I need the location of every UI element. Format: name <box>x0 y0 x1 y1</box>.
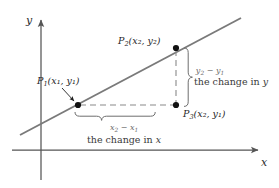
change-in-y-formula: y2 − y1 <box>195 66 224 76</box>
change-in-y-brace <box>184 48 192 106</box>
change-in-x-brace <box>75 112 155 120</box>
point-p2-dot <box>173 45 179 51</box>
point-p2-label: P2(x₂, y₂) <box>117 35 161 48</box>
change-in-x-caption: the change in x <box>87 134 162 145</box>
point-p1-dot <box>75 102 81 108</box>
point-p3-dot <box>173 102 179 108</box>
p1-leader-arrow <box>62 88 74 101</box>
y-minus-operator: − <box>204 66 216 75</box>
p1-coords: (x₁, y₁) <box>48 75 80 86</box>
change-in-y-caption: the change in y <box>194 76 269 87</box>
change-in-x-caption-prefix: the change in <box>87 134 156 145</box>
point-p1-label: P1(x₁, y₁) <box>36 75 80 88</box>
p3-coords: (x₂, y₁) <box>194 108 226 119</box>
x1-subscript: 1 <box>134 127 138 133</box>
point-p3-label: P3(x₂, y₁) <box>182 108 226 121</box>
slope-diagram-canvas: y x P1(x₁, y₁) P2(x₂, y₂) P3(x₂, y₁) <box>0 0 279 188</box>
change-in-y-caption-variable: y <box>262 76 269 87</box>
p2-coords: (x₂, y₂) <box>129 35 161 46</box>
y-axis-label: y <box>25 14 33 27</box>
change-in-x-caption-variable: x <box>156 134 162 145</box>
slope-diagram-figure: y x P1(x₁, y₁) P2(x₂, y₂) P3(x₂, y₁) <box>0 0 279 188</box>
change-in-y-caption-prefix: the change in <box>194 76 263 87</box>
x-minus-operator: − <box>118 123 130 132</box>
change-in-x-formula: x2 − x1 <box>110 123 138 133</box>
x-axis-label: x <box>261 156 268 169</box>
